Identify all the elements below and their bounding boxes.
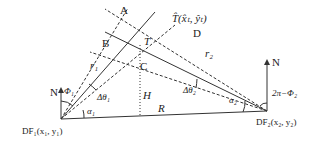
height-h-label: H [143,90,151,101]
point-b-label: B [102,38,109,49]
df2-phi-label: 2π−Φ₂ [272,89,297,98]
point-a-label: A [120,5,128,16]
point-d-label: D [193,28,201,39]
df1-north-label: N [50,87,58,98]
range-r2-label: r₂ [205,48,213,59]
df2-dtheta-label: Δθ₂ [183,86,196,95]
df2-station-label: DF₂(x₂, y₂) [256,118,296,127]
df2-alpha-label: α₂ [229,96,237,105]
df1-alpha-arc [83,110,84,118]
point-c-label: C [140,61,147,72]
df2-dtheta-arc [196,79,197,88]
df1-phi-label: Φ₁ [64,87,74,96]
point-t-label: T [144,36,150,47]
df2-bearing-line [105,32,267,111]
baseline-r-label: R [158,103,165,114]
df1-dtheta-arc [89,84,96,90]
df2-phi-arc [260,103,267,106]
range-r1-label: r₁ [90,60,98,71]
df2-bound-lower [90,52,267,111]
df1-station-label: DF₁(x₁, y₁) [22,127,62,136]
point-t-hat-label: T̂(x̂ₜ, ŷₜ) [172,13,207,24]
df2-north-label: N [272,57,280,68]
df1-dtheta-label: Δθ₁ [97,93,110,102]
df1-alpha-label: α₁ [87,107,95,116]
df2-bound-upper [105,9,267,111]
